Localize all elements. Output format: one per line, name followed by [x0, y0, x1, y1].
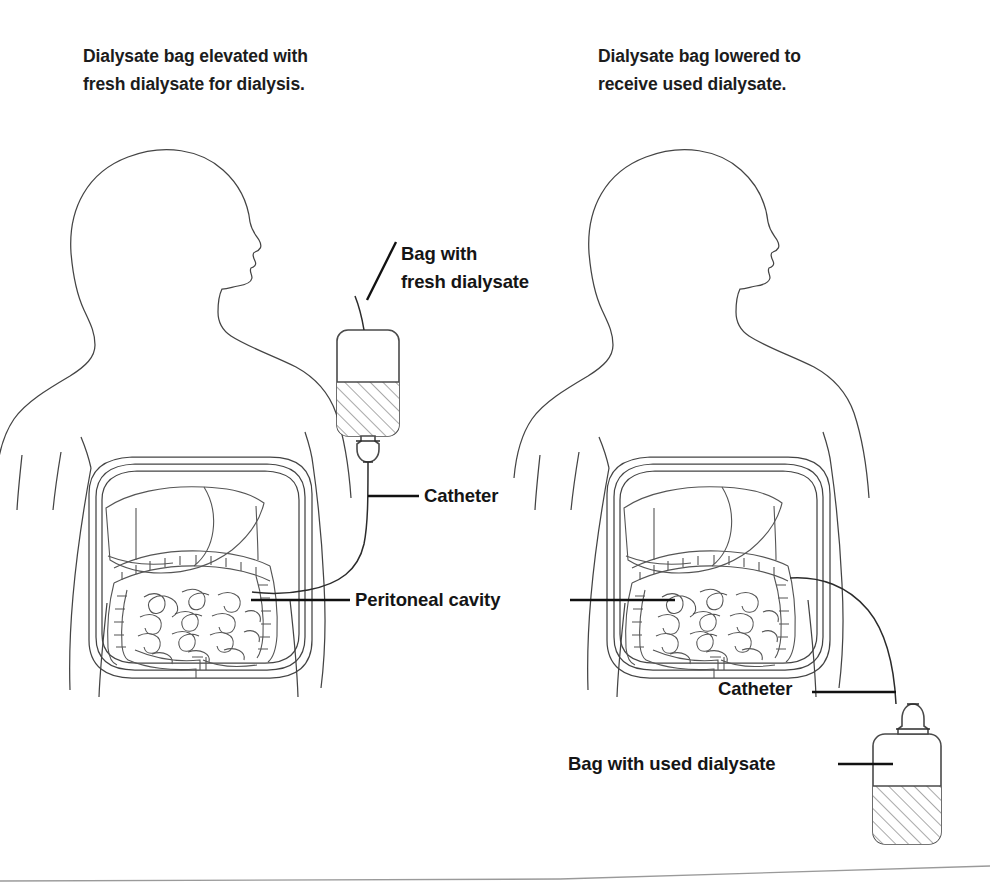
diagram-canvas: Dialysate bag elevated with fresh dialys… [0, 0, 990, 883]
label-bag-fresh-dialysate: Bag with fresh dialysate [401, 240, 529, 296]
catheter-tube-right [790, 578, 896, 704]
bag-used-dialysate [873, 704, 941, 844]
page-edge-line-left [0, 879, 560, 881]
panel-title-right: Dialysate bag lowered to receive used di… [598, 42, 801, 99]
catheter-tube-left [252, 462, 368, 593]
figure-right-patient [514, 150, 869, 697]
figure-left-patient [0, 150, 351, 697]
page-edge-line [560, 866, 990, 879]
diagram-artwork [0, 0, 990, 883]
label-catheter-right: Catheter [718, 675, 792, 703]
label-bag-used-dialysate: Bag with used dialysate [568, 750, 775, 778]
leader-fresh-bag [367, 242, 396, 300]
bag-fresh-dialysate [337, 296, 399, 462]
label-catheter-left: Catheter [424, 482, 498, 510]
label-peritoneal-cavity: Peritoneal cavity [355, 586, 500, 614]
panel-title-left: Dialysate bag elevated with fresh dialys… [83, 42, 308, 99]
